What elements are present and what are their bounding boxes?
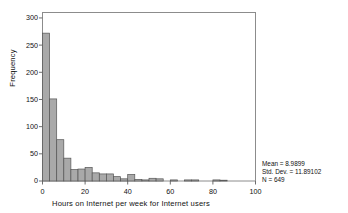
statistics-annotation: Mean = 8.9899 Std. Dev. = 11.89102 N = 6… (262, 160, 321, 185)
x-tick-label: 20 (73, 187, 97, 196)
histogram-bar (156, 179, 163, 181)
histogram-bar (71, 170, 78, 181)
histogram-bar (185, 180, 192, 181)
histogram-bar (121, 179, 128, 181)
y-tick-label: 250 (12, 41, 38, 50)
x-tick-label: 100 (244, 187, 268, 196)
histogram-bar (113, 177, 120, 181)
histogram-bar (220, 180, 227, 181)
histogram-bar (106, 174, 113, 181)
histogram-bars (43, 33, 228, 181)
histogram-bar (170, 180, 177, 181)
x-axis-title: Hours on Internet per week for Internet … (0, 199, 262, 208)
x-tick-label: 0 (31, 187, 55, 196)
histogram-bar (43, 33, 50, 181)
histogram-bar (92, 173, 99, 181)
histogram-bar (213, 180, 220, 181)
histogram-bar (57, 140, 64, 181)
histogram-bar (142, 180, 149, 181)
y-tick-label: 200 (12, 68, 38, 77)
histogram-bar (85, 167, 92, 181)
histogram-bar (192, 180, 199, 181)
histogram-bar (135, 179, 142, 181)
histogram-bar (149, 178, 156, 181)
y-tick-label: 0 (12, 176, 38, 185)
stat-stddev: Std. Dev. = 11.89102 (262, 168, 321, 176)
plot-frame (43, 13, 256, 182)
y-tick-label: 300 (12, 13, 38, 22)
histogram-bar (99, 174, 106, 181)
y-tick-label: 100 (12, 122, 38, 131)
x-axis-tick-marks (43, 181, 256, 185)
x-tick-label: 40 (116, 187, 140, 196)
stat-mean: Mean = 8.9899 (262, 160, 321, 168)
y-tick-label: 50 (12, 149, 38, 158)
histogram-bar (50, 99, 57, 181)
y-tick-label: 150 (12, 95, 38, 104)
stat-n: N = 649 (262, 176, 321, 184)
histogram-bar (64, 158, 71, 181)
x-tick-label: 60 (158, 187, 182, 196)
histogram-figure: Frequency Hours on Internet per week for… (0, 0, 348, 213)
y-axis-tick-marks (39, 18, 43, 181)
histogram-bar (128, 174, 135, 181)
x-tick-label: 80 (201, 187, 225, 196)
histogram-bar (78, 169, 85, 181)
